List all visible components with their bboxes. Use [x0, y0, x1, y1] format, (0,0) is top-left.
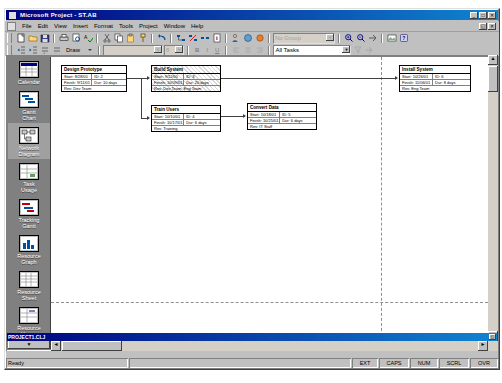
network-node-field: Start: 8/28/01: [62, 74, 92, 79]
network-node-field: Dur: 6 days: [280, 118, 316, 123]
filter-combo-value: All Tasks: [275, 47, 299, 53]
menu-item-format[interactable]: Format: [91, 23, 116, 29]
network-node[interactable]: Install SystemStart: 10/26/01ID: 6Finish…: [399, 65, 471, 92]
save-icon[interactable]: [39, 33, 50, 44]
scroll-left-button[interactable]: ◄: [51, 341, 61, 351]
menu-item-insert[interactable]: Insert: [70, 23, 91, 29]
spelling-icon[interactable]: A: [82, 33, 93, 44]
filter-combo[interactable]: All Tasks ▼: [273, 45, 351, 56]
network-node-field: Res: Dev Team, Eng Team: [152, 86, 220, 91]
goto-task-icon[interactable]: [364, 45, 375, 56]
horizontal-scrollbar[interactable]: ◄ ►: [51, 341, 488, 351]
view-bar-scroll-down[interactable]: ▼: [8, 340, 50, 349]
mdi-close-button[interactable]: ✕: [488, 23, 496, 30]
sidebar-item-task-usage[interactable]: Task Usage: [8, 159, 50, 195]
gantt-chart-view-icon: [19, 91, 39, 108]
menu-item-help[interactable]: Help: [188, 23, 206, 29]
draw-chevron-down-icon[interactable]: [84, 45, 95, 56]
task-information-icon[interactable]: i: [211, 33, 222, 44]
underline-icon[interactable]: U: [212, 47, 222, 53]
print-preview-icon[interactable]: [70, 33, 81, 44]
outdent-icon[interactable]: [15, 45, 26, 56]
draw-menu-button[interactable]: Draw: [63, 47, 83, 53]
document-restore-button[interactable]: ◱: [489, 334, 496, 340]
sidebar-item-calendar[interactable]: Calendar: [8, 57, 50, 87]
copy-picture-icon[interactable]: [386, 33, 397, 44]
autofilter-icon[interactable]: [352, 45, 363, 56]
menu-item-edit[interactable]: Edit: [35, 23, 51, 29]
network-node[interactable]: Build SystemStart: 9/12/01ID: 3Finish: 1…: [151, 65, 221, 92]
minimize-button[interactable]: _: [470, 12, 478, 19]
font-size-combo[interactable]: 8 ▼: [164, 45, 184, 56]
network-diagram-view-icon: [19, 127, 39, 144]
indent-icon[interactable]: [27, 45, 38, 56]
scroll-up-button[interactable]: ▲: [488, 55, 498, 65]
publish-icon[interactable]: [242, 33, 253, 44]
assign-resources-icon[interactable]: [230, 33, 241, 44]
bold-icon[interactable]: B: [192, 47, 202, 53]
new-icon[interactable]: [15, 33, 26, 44]
italic-icon[interactable]: I: [203, 47, 211, 53]
chevron-down-icon[interactable]: ▼: [326, 34, 334, 41]
align-right-icon[interactable]: [254, 45, 265, 56]
align-left-icon[interactable]: [230, 45, 241, 56]
chevron-down-icon[interactable]: ▼: [175, 46, 183, 53]
document-icon[interactable]: [7, 22, 16, 31]
network-node[interactable]: Design PrototypeStart: 8/28/01ID: 2Finis…: [61, 65, 127, 92]
sidebar-item-label: Tracking Gantt: [8, 217, 50, 229]
sidebar-item-label: Task Usage: [8, 181, 50, 193]
status-extend: EXT: [352, 358, 378, 368]
sidebar-item-network-diagram[interactable]: Network Diagram: [8, 123, 50, 159]
unlink-tasks-icon[interactable]: [187, 33, 198, 44]
align-center-icon[interactable]: [242, 45, 253, 56]
toolbar-separator: [225, 46, 227, 55]
font-name-combo[interactable]: ▼: [103, 45, 163, 56]
hide-subtasks-icon[interactable]: -: [51, 45, 62, 56]
vertical-scrollbar[interactable]: ▲ ▼: [488, 55, 498, 341]
paste-icon[interactable]: [125, 33, 136, 44]
network-node-field: ID: 4: [184, 114, 220, 119]
network-node[interactable]: Train UsersStart: 10/10/01ID: 4Finish: 1…: [151, 105, 221, 132]
sidebar-item-resource-graph[interactable]: Resource Graph: [8, 231, 50, 267]
toolbar-grip[interactable]: [7, 45, 12, 55]
open-icon[interactable]: [27, 33, 38, 44]
chevron-down-icon[interactable]: ▼: [154, 46, 162, 53]
vertical-scroll-thumb[interactable]: [488, 66, 498, 92]
undo-icon[interactable]: [156, 33, 167, 44]
menu-item-window[interactable]: Window: [161, 23, 188, 29]
show-subtasks-icon[interactable]: +: [39, 45, 50, 56]
menu-item-view[interactable]: View: [51, 23, 70, 29]
insert-hyperlink-icon[interactable]: [254, 33, 265, 44]
network-diagram-pane[interactable]: Design PrototypeStart: 8/28/01ID: 2Finis…: [51, 57, 488, 341]
connector-arrowhead: [395, 76, 398, 80]
link-tasks-icon[interactable]: [175, 33, 186, 44]
group-combo[interactable]: No Group ▼: [273, 33, 335, 44]
cut-icon[interactable]: [101, 33, 112, 44]
chevron-down-icon[interactable]: ▼: [342, 46, 350, 53]
network-node-title: Train Users: [152, 106, 220, 114]
sidebar-item-resource-sheet[interactable]: Resource Sheet: [8, 267, 50, 303]
sidebar-item-gantt-chart[interactable]: Gantt Chart: [8, 87, 50, 123]
mdi-restore-button[interactable]: ◱: [479, 23, 487, 30]
menu-item-project[interactable]: Project: [136, 23, 161, 29]
copy-icon[interactable]: [113, 33, 124, 44]
network-node-title: Convert Data: [248, 104, 316, 112]
close-button[interactable]: ✕: [488, 12, 496, 19]
toolbar-grip[interactable]: [7, 33, 12, 43]
scroll-right-button[interactable]: ►: [478, 341, 488, 351]
network-node-row: Res: Eng Team: [400, 86, 470, 91]
view-bar-items: Calendar Gantt Chart Network Diagram: [8, 57, 50, 339]
network-node[interactable]: Convert DataStart: 10/18/01ID: 5Finish: …: [247, 103, 317, 130]
office-assistant-icon[interactable]: ?: [398, 33, 409, 44]
zoom-out-icon[interactable]: [355, 33, 366, 44]
split-task-icon[interactable]: [199, 33, 210, 44]
format-painter-icon[interactable]: [137, 33, 148, 44]
sidebar-item-tracking-gantt[interactable]: Tracking Gantt: [8, 195, 50, 231]
maximize-button[interactable]: □: [479, 12, 487, 19]
goto-selected-task-icon[interactable]: [367, 33, 378, 44]
horizontal-scroll-thumb[interactable]: [62, 341, 122, 351]
print-icon[interactable]: [58, 33, 69, 44]
zoom-in-icon[interactable]: [343, 33, 354, 44]
menu-item-file[interactable]: File: [19, 23, 35, 29]
menu-item-tools[interactable]: Tools: [116, 23, 136, 29]
